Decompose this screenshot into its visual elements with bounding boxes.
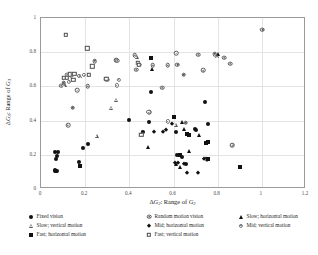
- sun-circle-marker: [71, 105, 76, 110]
- legend-item-filled-diamond[interactable]: Mid; horizontal motion: [146, 221, 238, 230]
- data-point-small-sun: [115, 83, 119, 87]
- open-square-marker: [72, 72, 76, 76]
- data-points-layer: [41, 18, 304, 187]
- data-point-filled-circle: [54, 157, 58, 161]
- data-point-sun-circle: [165, 63, 170, 68]
- chart-legend: Fixed visionRandom motion visionSlow; ho…: [28, 212, 314, 239]
- open-square-marker: [85, 46, 89, 50]
- legend-item-filled-triangle[interactable]: Slow; horizontal motion: [238, 212, 314, 221]
- filled-circle-marker: [53, 168, 57, 172]
- filled-circle-marker: [54, 157, 58, 161]
- open-square-marker: [90, 64, 94, 68]
- open-triangle-marker: [135, 55, 139, 59]
- sun-circle-marker: [115, 58, 120, 63]
- y-tick-label: 0.8: [22, 48, 36, 54]
- legend-item-label: Fixed vision: [37, 212, 63, 221]
- legend-item-filled-square[interactable]: Fast; horizontal motion: [28, 230, 146, 239]
- data-point-sun-circle: [181, 72, 186, 77]
- open-triangle-marker: [109, 106, 113, 110]
- legend-item-open-triangle[interactable]: Slow; vertical motion: [28, 221, 146, 230]
- data-point-filled-circle: [127, 118, 131, 122]
- sun-circle-marker: [196, 52, 201, 57]
- sun-circle-marker: [222, 55, 227, 60]
- data-point-filled-circle: [81, 146, 85, 150]
- filled-circle-icon: [28, 213, 34, 220]
- filled-diamond-marker: [185, 171, 190, 176]
- small-sun-marker: [146, 110, 150, 114]
- plot-area: [40, 17, 305, 188]
- y-tick-label: 0.4: [22, 117, 36, 123]
- y-tick-label: 0: [22, 185, 36, 191]
- open-triangle-icon: [28, 222, 34, 229]
- filled-square-marker: [187, 133, 191, 137]
- data-point-filled-square: [206, 140, 210, 144]
- legend-item-sun-circle[interactable]: Random motion vision: [146, 212, 238, 221]
- sun-circle-marker: [92, 59, 97, 64]
- data-point-sun-circle: [71, 105, 76, 110]
- y-tick-label: 1: [22, 14, 36, 20]
- x-tick-label: 0.4: [125, 190, 131, 196]
- data-point-open-square: [137, 63, 141, 67]
- filled-square-icon: [28, 231, 34, 238]
- data-point-small-sun: [117, 77, 121, 81]
- legend-item-label: Slow; vertical motion: [37, 221, 83, 230]
- filled-diamond-icon: [146, 222, 152, 229]
- data-point-filled-circle: [53, 168, 57, 172]
- x-tick-label: 0.6: [169, 190, 175, 196]
- sun-circle-marker: [66, 123, 71, 128]
- filled-triangle-marker: [187, 149, 191, 153]
- data-point-filled-square: [78, 164, 82, 168]
- data-point-filled-triangle: [178, 165, 182, 169]
- data-point-small-sun: [165, 119, 169, 123]
- filled-square-marker: [78, 164, 82, 168]
- filled-triangle-icon: [238, 213, 244, 220]
- filled-triangle-marker: [178, 165, 182, 169]
- small-sun-marker: [230, 143, 234, 147]
- data-point-filled-square: [149, 56, 153, 60]
- sun-circle-marker: [85, 84, 90, 89]
- filled-circle-marker: [206, 122, 210, 126]
- data-point-sun-circle: [201, 68, 206, 73]
- data-point-sun-circle: [66, 123, 71, 128]
- data-point-filled-triangle: [187, 149, 191, 153]
- filled-circle-marker: [149, 90, 153, 94]
- data-point-filled-square: [172, 115, 176, 119]
- filled-circle-marker: [147, 120, 151, 124]
- data-point-filled-triangle: [146, 145, 150, 149]
- legend-item-label: Fast; vertical motion: [155, 230, 199, 239]
- data-point-sun-circle: [115, 58, 120, 63]
- scatter-plot-figure: ΔG3: Range of G3 00.20.40.60.811.2 00.20…: [0, 0, 318, 255]
- legend-item-filled-circle[interactable]: Fixed vision: [28, 212, 146, 221]
- data-point-filled-circle: [194, 128, 198, 132]
- data-point-sun-circle: [196, 52, 201, 57]
- legend-item-small-sun[interactable]: Mid; vertical motion: [238, 221, 314, 230]
- data-point-sun-circle: [174, 51, 179, 56]
- data-point-open-square: [85, 46, 89, 50]
- sun-circle-marker: [175, 62, 180, 67]
- sun-circle-icon: [146, 213, 152, 220]
- data-point-small-sun: [146, 110, 150, 114]
- x-tick-label: 1: [260, 190, 263, 196]
- data-point-filled-circle: [206, 122, 210, 126]
- data-point-open-square: [87, 73, 91, 77]
- small-sun-marker: [117, 77, 121, 81]
- filled-square-marker: [149, 56, 153, 60]
- filled-triangle-marker: [197, 133, 201, 137]
- data-point-filled-triangle: [182, 127, 186, 131]
- sun-circle-marker: [160, 85, 165, 90]
- legend-item-open-square[interactable]: Fast; vertical motion: [146, 230, 238, 239]
- filled-circle-marker: [194, 128, 198, 132]
- filled-circle-marker: [174, 130, 178, 134]
- open-square-icon: [146, 231, 152, 238]
- data-point-open-square: [72, 72, 76, 76]
- data-point-open-square: [90, 64, 94, 68]
- filled-square-marker: [172, 115, 176, 119]
- data-point-sun-circle: [222, 55, 227, 60]
- open-square-marker: [137, 63, 141, 67]
- data-point-open-square: [139, 132, 143, 136]
- data-point-sun-circle: [175, 62, 180, 67]
- open-square-marker: [104, 76, 108, 80]
- filled-square-marker: [178, 153, 182, 157]
- y-tick-label: 0.2: [22, 151, 36, 157]
- filled-circle-marker: [203, 100, 207, 104]
